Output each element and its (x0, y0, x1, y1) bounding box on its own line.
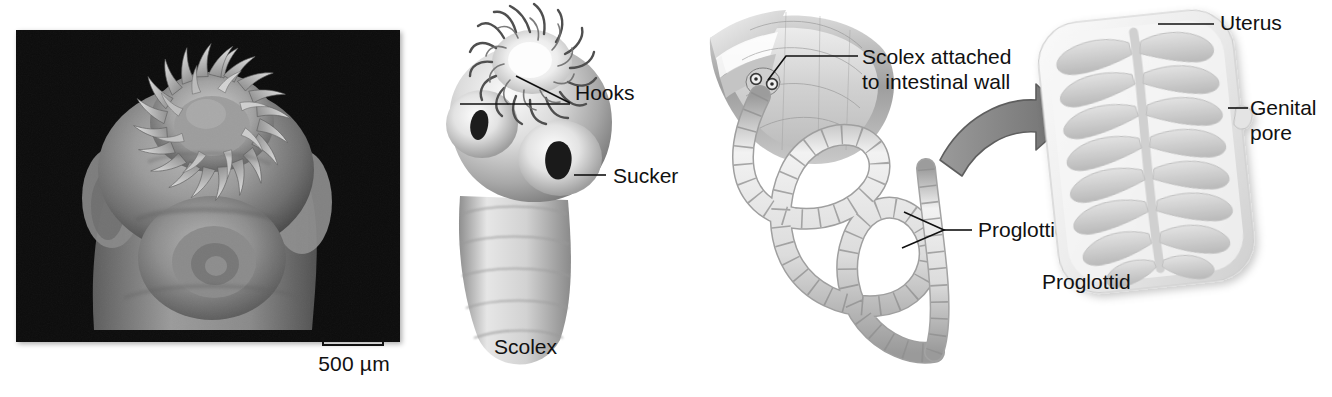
scolex-illustration (420, 0, 700, 397)
tapeworm-anatomy-figure: 500 µm (0, 0, 1332, 397)
caption-proglottid: Proglottid (1042, 269, 1131, 294)
label-genital-pore-line1: Genital (1250, 95, 1317, 120)
caption-scolex: Scolex (494, 334, 557, 359)
sem-photograph (16, 30, 400, 342)
scale-bar (322, 344, 384, 345)
panel-proglottid-detail: Uterus Genital pore Proglottid (1000, 0, 1332, 397)
panel-whole-worm: Scolex attached to intestinal wall Progl… (690, 0, 1020, 397)
panel-sem-micrograph: 500 µm (0, 0, 420, 397)
proglottid-illustration (1000, 0, 1332, 397)
label-hooks: Hooks (575, 80, 635, 105)
scale-bar-label: 500 µm (300, 352, 408, 376)
label-scolex-attached-line2: to intestinal wall (862, 69, 1010, 94)
label-scolex-attached-line1: Scolex attached (862, 44, 1011, 69)
panel-scolex-diagram: Hooks Sucker Scolex (420, 0, 700, 397)
label-sucker: Sucker (613, 163, 678, 188)
label-genital-pore-line2: pore (1250, 120, 1292, 145)
label-uterus: Uterus (1220, 10, 1282, 35)
